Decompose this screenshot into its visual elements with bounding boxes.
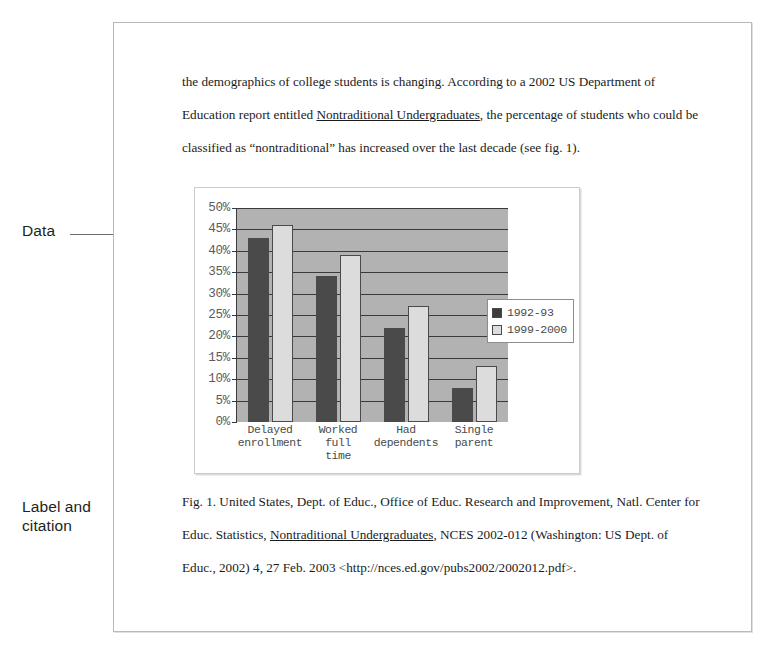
chart-y-tick-label: 5% bbox=[215, 394, 230, 408]
chart-y-tick-mark bbox=[232, 422, 237, 423]
chart-y-tick-label: 35% bbox=[208, 265, 230, 279]
chart-x-axis-label: Had dependents bbox=[372, 424, 440, 463]
chart-bar bbox=[408, 306, 429, 422]
chart-plot-wrapper: 50%45%40%35%30%25%20%15%10%5%0% bbox=[236, 208, 508, 422]
chart-bar bbox=[452, 388, 473, 422]
chart-legend-label: 1999-2000 bbox=[507, 323, 567, 336]
chart-bar bbox=[272, 225, 293, 422]
chart-y-tick-label: 0% bbox=[215, 415, 230, 429]
chart-bar bbox=[316, 276, 337, 422]
chart-bar bbox=[384, 328, 405, 422]
chart-y-tick-label: 45% bbox=[208, 222, 230, 236]
chart-legend-swatch bbox=[492, 325, 502, 335]
chart-bar bbox=[248, 238, 269, 422]
body-text-source-title: Nontraditional Undergraduates bbox=[316, 107, 479, 122]
figure-caption: Fig. 1. United States, Dept. of Educ., O… bbox=[182, 485, 702, 584]
body-paragraph: the demographics of college students is … bbox=[182, 65, 702, 164]
chart-legend-item: 1992-93 bbox=[492, 304, 567, 321]
chart-bar bbox=[476, 366, 497, 422]
chart-y-tick-label: 30% bbox=[208, 287, 230, 301]
chart-bar-group bbox=[237, 208, 305, 422]
chart-y-tick-label: 25% bbox=[208, 308, 230, 322]
chart-y-tick-label: 10% bbox=[208, 372, 230, 386]
chart-legend-item: 1999-2000 bbox=[492, 321, 567, 338]
chart-x-axis-label: Single parent bbox=[440, 424, 508, 463]
caption-source-title: Nontraditional Undergraduates bbox=[270, 527, 433, 542]
annotation-data-label: Data bbox=[22, 222, 55, 241]
chart-legend-swatch bbox=[492, 308, 502, 318]
chart-legend: 1992-931999-2000 bbox=[487, 299, 574, 343]
chart-bars-container bbox=[237, 208, 508, 422]
annotation-label-citation: Label and citation bbox=[22, 498, 91, 536]
chart-bar-group bbox=[305, 208, 373, 422]
chart-y-tick-label: 20% bbox=[208, 329, 230, 343]
document-page: the demographics of college students is … bbox=[113, 22, 752, 632]
chart-x-axis-label: Delayed enrollment bbox=[236, 424, 304, 463]
chart-x-axis-label: Worked full time bbox=[304, 424, 372, 463]
chart-y-tick-label: 50% bbox=[208, 201, 230, 215]
chart-y-tick-label: 15% bbox=[208, 351, 230, 365]
chart-legend-label: 1992-93 bbox=[507, 306, 554, 319]
figure-bar-chart: 50%45%40%35%30%25%20%15%10%5%0% Delayed … bbox=[194, 187, 580, 474]
chart-bar-group bbox=[373, 208, 441, 422]
chart-bar bbox=[340, 255, 361, 422]
chart-x-axis-labels: Delayed enrollmentWorked full timeHad de… bbox=[236, 424, 508, 463]
chart-y-tick-label: 40% bbox=[208, 244, 230, 258]
